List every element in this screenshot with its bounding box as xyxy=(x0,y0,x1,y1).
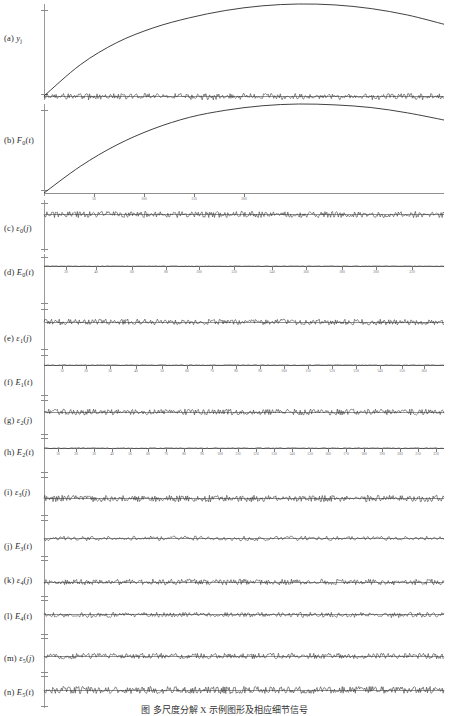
x-tick-label-h-20: 210 xyxy=(415,452,420,456)
y-tick-n-0 xyxy=(41,676,48,677)
panel-l: (l) E4(t) xyxy=(0,598,449,636)
panel-label-h: (h) E2(t) xyxy=(4,447,34,457)
x-tick-label-d-6: 140 xyxy=(269,270,274,274)
y-tick-k-0 xyxy=(41,560,48,561)
y-tick-c-0 xyxy=(41,203,48,204)
flat-line-f xyxy=(44,362,444,369)
plot-area-a xyxy=(44,4,444,100)
panel-label-i: (i) ε3(j) xyxy=(4,487,30,497)
panel-label-j: (j) E3(t) xyxy=(4,541,32,551)
plot-area-j xyxy=(44,518,444,558)
y-tick-j-1 xyxy=(41,556,48,557)
panel-g: (g) ε2(j) xyxy=(0,398,449,436)
x-tick-label-h-18: 190 xyxy=(379,452,384,456)
x-tick-label-f-4: 50 xyxy=(160,369,164,373)
x-tick-label-h-13: 140 xyxy=(289,452,294,456)
x-tick-label-h-6: 70 xyxy=(164,452,168,456)
y-tick-k-1 xyxy=(41,596,48,597)
y-tick-i-1 xyxy=(41,515,48,516)
y-tick-i-0 xyxy=(41,477,48,478)
plot-area-l xyxy=(44,598,444,636)
noise-band-c xyxy=(44,208,444,221)
panel-m: (m) ε5(j) xyxy=(0,636,449,674)
x-tick-label-f-13: 140 xyxy=(377,369,382,373)
panel-k: (k) ε4(j) xyxy=(0,558,449,598)
y-axis-e xyxy=(44,306,45,352)
x-tick-label-d-10: 220 xyxy=(409,270,414,274)
panel-label-l: (l) E4(t) xyxy=(4,611,32,621)
panel-label-b: (b) F0(t) xyxy=(4,135,34,145)
caption-text: 图 多尺度分解 X 示例图形及相应细节信号 xyxy=(141,705,307,715)
panel-label-e: (e) ε1(j) xyxy=(4,333,32,343)
x-tick-label-h-3: 40 xyxy=(110,452,114,456)
x-tick-label-f-2: 30 xyxy=(108,369,112,373)
y-tick-m-1 xyxy=(41,672,48,673)
x-tick-label-h-17: 180 xyxy=(361,452,366,456)
noise-band-g xyxy=(44,406,444,418)
x-tick-label-f-15: 160 xyxy=(421,369,426,373)
y-tick-f-0 xyxy=(41,355,48,356)
x-tick-label-d-0: 20 xyxy=(64,270,68,274)
panel-label-k: (k) ε4(j) xyxy=(4,575,32,585)
x-tick-label-f-0: 10 xyxy=(60,369,64,373)
noise-overlay-a xyxy=(44,90,444,102)
x-tick-label-f-12: 130 xyxy=(353,369,358,373)
x-tick-label-h-10: 110 xyxy=(235,452,240,456)
y-tick-j-0 xyxy=(41,520,48,521)
x-tick-label-f-9: 100 xyxy=(281,369,286,373)
x-tick-label-f-3: 40 xyxy=(134,369,138,373)
x-tick-label-d-3: 80 xyxy=(164,270,168,274)
x-tick-label-f-8: 90 xyxy=(258,369,262,373)
panel-label-a: (a) yj xyxy=(4,33,22,43)
x-tick-label-f-14: 150 xyxy=(399,369,404,373)
x-tick-label-d-4: 100 xyxy=(196,270,201,274)
y-tick-f-1 xyxy=(41,395,48,396)
noise-band-j xyxy=(44,533,444,543)
x-tick-label-h-16: 170 xyxy=(343,452,348,456)
y-tick-l-1 xyxy=(41,634,48,635)
figure-container: (a) yj(b) F0(t)50100150200(c) ε0(j)(d) E… xyxy=(0,0,449,716)
plot-area-d: 20406080100120140160180200220 xyxy=(44,254,444,306)
y-tick-g-0 xyxy=(41,400,48,401)
panel-label-n: (n) E5(t) xyxy=(4,687,34,697)
noise-band-k xyxy=(44,576,444,588)
plot-area-m xyxy=(44,636,444,674)
figure-caption: 图 多尺度分解 X 示例图形及相应细节信号 xyxy=(0,703,449,716)
plot-area-h: 1020304050607080901001101201301401501601… xyxy=(44,436,444,474)
panel-c: (c) ε0(j) xyxy=(0,200,449,252)
x-tick-label-h-4: 50 xyxy=(128,452,132,456)
x-tick-label-f-5: 60 xyxy=(185,369,189,373)
x-tick-label-d-8: 180 xyxy=(339,270,344,274)
x-tick-label-f-7: 80 xyxy=(234,369,238,373)
plot-area-k xyxy=(44,558,444,598)
x-tick-label-f-11: 120 xyxy=(329,369,334,373)
y-axis-h xyxy=(44,436,45,474)
y-tick-e-1 xyxy=(41,349,48,350)
panel-label-m: (m) ε5(j) xyxy=(4,653,35,663)
y-tick-h-0 xyxy=(41,438,48,439)
y-tick-h-1 xyxy=(41,472,48,473)
x-tick-label-d-7: 160 xyxy=(303,270,308,274)
noise-band-l xyxy=(44,609,444,620)
x-tick-label-h-1: 20 xyxy=(74,452,78,456)
x-tick-label-d-1: 40 xyxy=(94,270,98,274)
y-tick-d-0 xyxy=(41,257,48,258)
x-tick-label-h-19: 200 xyxy=(397,452,402,456)
x-tick-label-h-5: 60 xyxy=(146,452,150,456)
x-tick-label-h-2: 30 xyxy=(92,452,96,456)
x-tick-label-h-9: 100 xyxy=(217,452,222,456)
x-tick-label-h-11: 120 xyxy=(253,452,258,456)
y-tick-m-0 xyxy=(41,638,48,639)
plot-area-f: 102030405060708090100110120130140150160 xyxy=(44,352,444,398)
panel-i: (i) ε3(j) xyxy=(0,474,449,518)
panel-j: (j) E3(t) xyxy=(0,518,449,558)
panel-h: (h) E2(t)1020304050607080901001101201301… xyxy=(0,436,449,474)
panel-a: (a) yj xyxy=(0,4,449,100)
x-tick-label-h-8: 90 xyxy=(200,452,204,456)
y-tick-d-1 xyxy=(41,303,48,304)
y-axis-d xyxy=(44,254,45,306)
flat-line-d xyxy=(44,263,444,270)
plot-area-b: 50100150200 xyxy=(44,104,444,196)
x-tick-label-f-1: 20 xyxy=(84,369,88,373)
panel-f: (f) E1(t)1020304050607080901001101201301… xyxy=(0,352,449,398)
